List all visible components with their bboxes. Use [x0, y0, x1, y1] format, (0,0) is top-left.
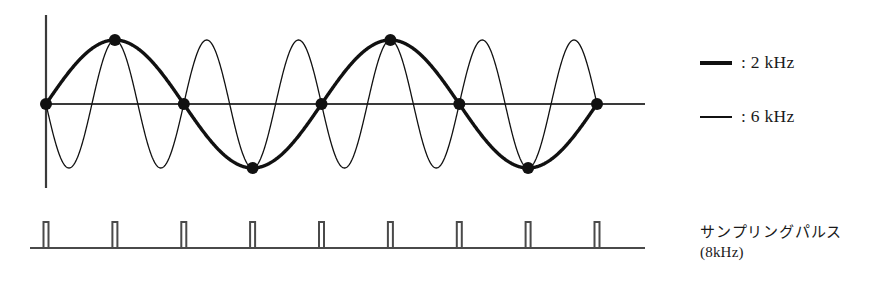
legend-label-6khz: : 6 kHz: [741, 108, 795, 126]
sample-dot: [591, 98, 603, 110]
sampling-pulse: [44, 222, 49, 248]
plot-axes: [46, 15, 645, 188]
sample-dot: [40, 98, 52, 110]
thin-line-swatch-icon: [700, 111, 732, 123]
sampling-pulse-train: [30, 222, 645, 248]
sampling-pulse: [457, 222, 462, 248]
sampling-pulse: [388, 222, 393, 248]
sampling-pulse: [250, 222, 255, 248]
sample-dot: [453, 98, 465, 110]
sampling-aliasing-figure: : 2 kHz : 6 kHz サンプリングパルス (8kHz): [0, 0, 883, 291]
caption-line-2: (8kHz): [700, 242, 880, 262]
legend-label-2khz: : 2 kHz: [741, 54, 795, 72]
caption-line-1: サンプリングパルス: [700, 222, 880, 242]
sample-dot: [316, 98, 328, 110]
sampling-pulse: [319, 222, 324, 248]
legend-entry-2khz: : 2 kHz: [700, 50, 880, 76]
thick-line-swatch-icon: [700, 57, 732, 69]
legend-entry-6khz: : 6 kHz: [700, 104, 880, 130]
sampling-pulse: [112, 222, 117, 248]
sample-dot: [109, 34, 121, 46]
sample-dot: [522, 162, 534, 174]
sampling-pulse-caption: サンプリングパルス (8kHz): [700, 222, 880, 263]
sampling-pulse: [526, 222, 531, 248]
sample-dot: [178, 98, 190, 110]
sample-dot: [247, 162, 259, 174]
sampling-pulse: [595, 222, 600, 248]
sampling-pulse: [181, 222, 186, 248]
legend: : 2 kHz : 6 kHz: [700, 50, 880, 130]
sample-dot: [384, 34, 396, 46]
